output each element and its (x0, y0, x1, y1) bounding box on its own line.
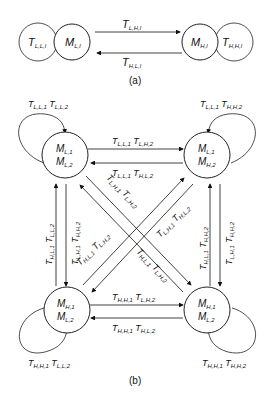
self-loop-BL-label: TH,H,1 TL,L,2 (28, 358, 71, 369)
self-loop-BR-label: TH,H,1 TH,H,2 (202, 358, 247, 369)
node-TL (42, 132, 88, 178)
edge-BR-BL-label: TH,H,1 TH,L,2 (112, 323, 156, 334)
edge-TR-BR-label: TL,H,1 TH,H,2 (224, 221, 235, 265)
edge-MH-ML-label: TH,L,l (122, 56, 142, 69)
node-BR (184, 287, 230, 333)
self-loop-ML-label: TL,L,l (28, 36, 47, 49)
edge-TR-TL-label: TL,L,1 TH,L,2 (112, 168, 154, 179)
edge-BL-BR-label: TH,H,1 TL,H,2 (112, 292, 156, 303)
self-loop-TR-label: TL,L,1 TH,H,2 (200, 99, 243, 110)
caption-b: (b) (129, 375, 141, 386)
edge-TL-TR-label: TL,L,1 TL,H,2 (112, 136, 154, 147)
figure-a: ML,l TL,L,l MH,l TH,H,l TL,H,l TH,L,l (a… (19, 18, 253, 86)
self-loop-MH-label: TH,H,l (222, 36, 243, 49)
edge-TR-BL-label: TL,H,1 TH,L,2 (154, 202, 192, 240)
self-loop-TL-label: TL,L,1 TL,L,2 (28, 99, 69, 110)
edge-BR-TL-label: TH,L,1 TL,H,2 (134, 246, 172, 284)
edge-BL-TL-label: TH,L,1 TL,L,2 (44, 223, 55, 265)
edge-TL-BR (86, 176, 191, 285)
edge-ML-MH-label: TL,H,l (122, 18, 142, 31)
state-diagram: ML,l TL,L,l MH,l TH,H,l TL,H,l TH,L,l (a… (0, 0, 274, 394)
figure-b: ML,1 ML,2 ML,1 MH,2 MH,1 ML,2 MH,1 ML,2 … (19, 99, 256, 386)
node-BL (44, 287, 90, 333)
self-loop-ML (19, 23, 57, 61)
node-TR (184, 132, 230, 178)
edge-BR-TR-label: TH,L,1 TH,H,2 (198, 226, 209, 270)
caption-a: (a) (129, 75, 141, 86)
self-loop-MH (215, 23, 253, 61)
